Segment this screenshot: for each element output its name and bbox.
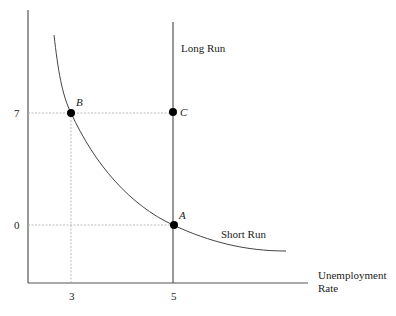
point-b-label: B bbox=[76, 96, 83, 108]
phillips-curve-chart: B C A Long Run Short Run Unemployment Ra… bbox=[0, 0, 396, 316]
x-axis-label-line1: Unemployment bbox=[318, 269, 386, 281]
chart-canvas: B C A Long Run Short Run Unemployment Ra… bbox=[0, 0, 396, 316]
long-run-label: Long Run bbox=[181, 42, 226, 54]
short-run-label: Short Run bbox=[221, 228, 266, 240]
y-tick-7: 7 bbox=[14, 107, 20, 119]
point-c-marker bbox=[169, 108, 177, 116]
x-tick-5: 5 bbox=[171, 290, 177, 302]
point-a-marker bbox=[170, 221, 178, 229]
point-a-label: A bbox=[178, 209, 186, 221]
short-run-curve bbox=[54, 35, 286, 251]
y-tick-0: 0 bbox=[14, 219, 20, 231]
x-axis-label-line2: Rate bbox=[318, 282, 338, 294]
x-tick-3: 3 bbox=[69, 290, 75, 302]
point-b-marker bbox=[67, 109, 75, 117]
point-c-label: C bbox=[180, 106, 188, 118]
